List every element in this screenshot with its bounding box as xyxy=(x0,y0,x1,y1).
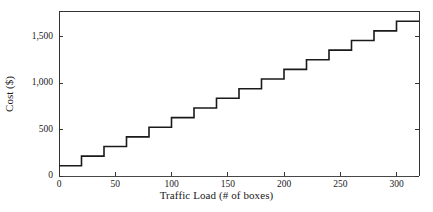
y-axis-title: Cost ($) xyxy=(3,76,15,112)
y-tick-label: 0 xyxy=(0,171,53,181)
y-tick-label: 500 xyxy=(0,125,53,135)
step-line-series-cost xyxy=(59,21,419,166)
chart-figure: 05001,0001,500 050100150200250300 Traffi… xyxy=(0,0,433,212)
axis-ticks xyxy=(59,37,419,176)
x-axis-title: Traffic Load (# of boxes) xyxy=(0,189,433,201)
chart-plot-area xyxy=(0,0,433,212)
y-tick-label: 1,500 xyxy=(0,32,53,42)
